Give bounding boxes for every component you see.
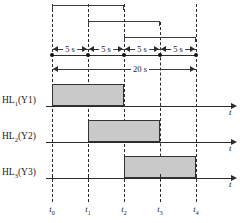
tick-label-t0: t0 — [49, 205, 54, 216]
tick-t3 — [160, 174, 161, 179]
tick-label-t2-sub: 2 — [124, 210, 127, 216]
tick-label-t2: t2 — [121, 205, 126, 216]
interval-label-4: 5 s — [171, 45, 185, 54]
tick-label-t4-sub: 4 — [196, 210, 199, 216]
channel-row-y3: HL3(Y3) t — [0, 154, 246, 186]
total-label: 20 s — [131, 65, 149, 74]
bracket-leg-right — [123, 5, 124, 10]
bracket-leg-left — [88, 21, 89, 26]
pulse-y1 — [52, 84, 124, 106]
axis-label-y3: t — [229, 180, 232, 189]
channel-label-y2-tail: (Y2) — [18, 131, 36, 141]
pulse-y2 — [88, 120, 160, 142]
bracket-bar — [124, 37, 196, 38]
total-line — [52, 69, 196, 70]
tick-t1 — [88, 174, 89, 179]
tick-label-t1-sub: 1 — [88, 210, 91, 216]
timing-diagram: 5 s 5 s 5 s 5 s 20 s HL1(Y1) t — [0, 0, 246, 223]
interval-arrow-left-4 — [161, 46, 166, 52]
tick-label-t1: t1 — [85, 205, 90, 216]
time-dot-t3 — [158, 53, 162, 57]
tick-t0 — [52, 174, 53, 179]
interval-label-1: 5 s — [63, 45, 77, 54]
channel-row-y1: HL1(Y1) t — [0, 82, 246, 114]
bracket-bar — [52, 5, 124, 6]
channel-label-y3: HL3(Y3) — [2, 168, 36, 179]
channel-label-y3-tail: (Y3) — [18, 167, 36, 177]
channel-label-y1-tail: (Y1) — [18, 95, 36, 105]
bracket-leg-left — [124, 37, 125, 42]
tick-label-t0-sub: 0 — [52, 210, 55, 216]
tick-label-t4: t4 — [193, 205, 198, 216]
bracket-leg-right — [195, 37, 196, 42]
channel-label-y2-base: HL — [2, 131, 15, 141]
interval-arrow-left-1 — [53, 46, 58, 52]
bracket-leg-left — [52, 5, 53, 10]
tick-label-t3-sub: 3 — [160, 210, 163, 216]
tick-t4 — [196, 174, 197, 179]
tick-label-t3: t3 — [157, 205, 162, 216]
interval-label-3: 5 s — [135, 45, 149, 54]
axis-label-y2: t — [229, 144, 232, 153]
axis-label-y1: t — [229, 108, 232, 117]
time-dot-t4 — [194, 53, 198, 57]
interval-arrow-right-4 — [190, 46, 195, 52]
channel-label-y2: HL2(Y2) — [2, 132, 36, 143]
total-row: 20 s — [0, 62, 246, 76]
bracket-leg-right — [159, 21, 160, 26]
interval-arrow-right-3 — [154, 46, 159, 52]
interval-arrow-right-1 — [82, 46, 87, 52]
channel-row-y2: HL2(Y2) t — [0, 118, 246, 150]
time-dot-t0 — [50, 53, 54, 57]
time-dot-t2 — [122, 53, 126, 57]
time-dot-t1 — [86, 53, 90, 57]
baseline-y3 — [46, 178, 232, 179]
baseline-y2 — [46, 142, 232, 143]
interval-arrow-left-2 — [89, 46, 94, 52]
baseline-y1 — [46, 106, 232, 107]
interval-arrow-left-3 — [125, 46, 130, 52]
total-arrow-left — [53, 66, 58, 72]
channel-label-y3-base: HL — [2, 167, 15, 177]
channel-label-y1: HL1(Y1) — [2, 96, 36, 107]
tick-t2 — [124, 174, 125, 179]
interval-label-2: 5 s — [99, 45, 113, 54]
channel-label-y1-base: HL — [2, 95, 15, 105]
interval-arrow-right-2 — [118, 46, 123, 52]
total-arrow-right — [190, 66, 195, 72]
bracket-bar — [88, 21, 160, 22]
